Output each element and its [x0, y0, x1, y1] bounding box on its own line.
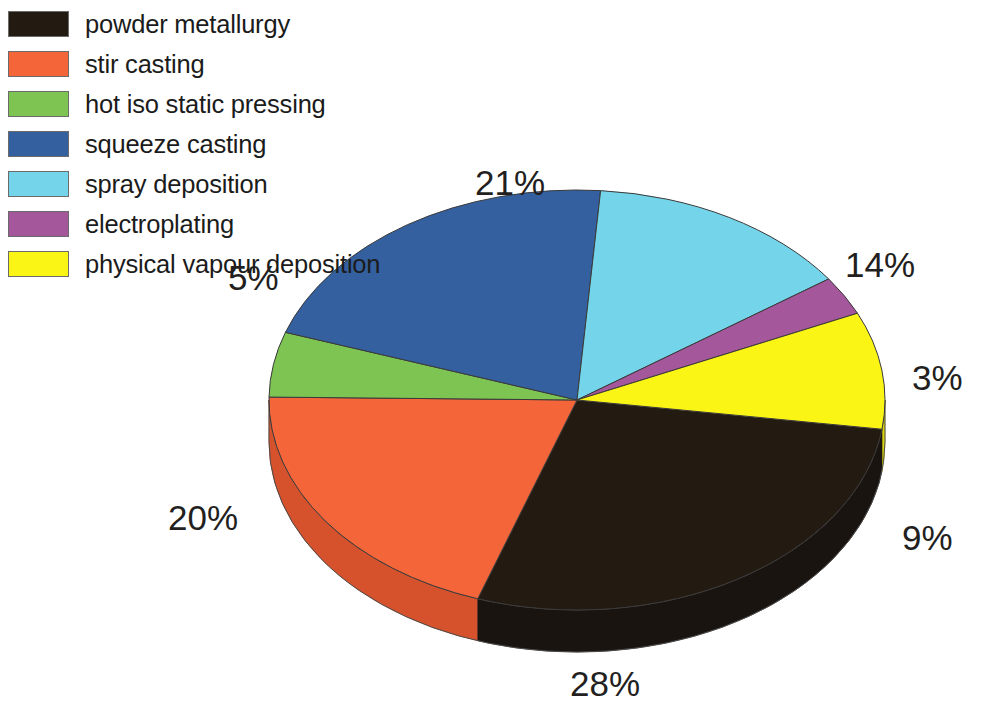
- legend-item-electroplating[interactable]: electroplating: [8, 206, 380, 241]
- legend-item-spray-deposition[interactable]: spray deposition: [8, 166, 380, 201]
- legend-swatch-electroplating: [8, 211, 69, 237]
- data-label-electroplating: 3%: [912, 358, 963, 398]
- legend-swatch-spray-deposition: [8, 171, 69, 197]
- legend-label-stir-casting: stir casting: [85, 51, 204, 77]
- legend-item-squeeze-casting[interactable]: squeeze casting: [8, 126, 380, 161]
- legend: powder metallurgy stir casting hot iso s…: [8, 6, 380, 286]
- data-label-powder-metallurgy: 28%: [570, 664, 640, 704]
- data-label-hot-iso-static-pressing: 5%: [228, 258, 279, 298]
- legend-item-powder-metallurgy[interactable]: powder metallurgy: [8, 6, 380, 41]
- legend-label-spray-deposition: spray deposition: [85, 171, 268, 197]
- legend-swatch-physical-vapour-deposition: [8, 251, 69, 277]
- legend-label-electroplating: electroplating: [85, 211, 234, 237]
- data-label-squeeze-casting: 21%: [475, 163, 545, 203]
- legend-swatch-squeeze-casting: [8, 131, 69, 157]
- legend-swatch-powder-metallurgy: [8, 11, 69, 37]
- data-label-stir-casting: 20%: [168, 498, 238, 538]
- legend-item-hot-iso-static-pressing[interactable]: hot iso static pressing: [8, 86, 380, 121]
- data-label-physical-vapour-deposition: 9%: [902, 518, 953, 558]
- legend-item-physical-vapour-deposition[interactable]: physical vapour deposition: [8, 246, 380, 281]
- legend-item-stir-casting[interactable]: stir casting: [8, 46, 380, 81]
- legend-label-squeeze-casting: squeeze casting: [85, 131, 266, 157]
- data-label-spray-deposition: 14%: [845, 245, 915, 285]
- legend-swatch-stir-casting: [8, 51, 69, 77]
- chart-canvas: powder metallurgy stir casting hot iso s…: [0, 0, 985, 718]
- legend-label-powder-metallurgy: powder metallurgy: [85, 11, 290, 37]
- legend-swatch-hot-iso-static-pressing: [8, 91, 69, 117]
- legend-label-hot-iso-static-pressing: hot iso static pressing: [85, 91, 326, 117]
